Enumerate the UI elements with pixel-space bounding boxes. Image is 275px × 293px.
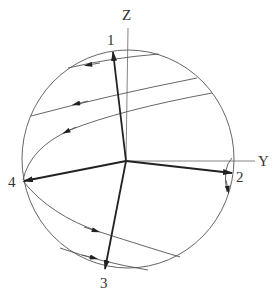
vector-4: [24, 161, 126, 181]
vector-2-label: 2: [236, 169, 244, 185]
vector-3-label: 3: [100, 275, 108, 291]
vector-1: [113, 52, 126, 161]
trajectory-curve-from-4: [23, 181, 180, 257]
arrow-bottom-chord: [82, 255, 94, 258]
vector-3: [105, 161, 126, 269]
arrow-curve-from-4: [84, 227, 96, 231]
y-axis-label: Y: [258, 153, 269, 169]
vector-1-label: 1: [107, 32, 115, 48]
trajectory-small-arc-near-2: [225, 158, 232, 192]
sphere-outline: [22, 50, 234, 268]
trajectory-middle-chord: [31, 78, 197, 116]
sphere-diagram: Z Y 1 2 3 4: [0, 0, 275, 293]
z-axis-label: Z: [122, 7, 131, 23]
vector-4-label: 4: [8, 174, 16, 190]
z-axis: [126, 28, 128, 161]
trajectory-bottom-chord: [60, 248, 148, 270]
arrow-curve-to-4: [66, 127, 76, 132]
vector-2: [126, 161, 232, 173]
